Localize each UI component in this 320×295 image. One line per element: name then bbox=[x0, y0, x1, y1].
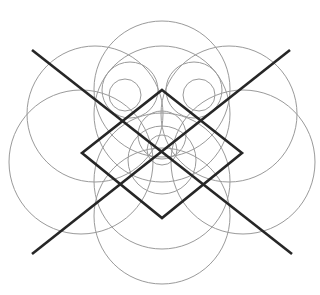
circle-outline bbox=[183, 79, 215, 111]
x-cross bbox=[32, 50, 292, 254]
circle-outline bbox=[171, 90, 315, 234]
circle-outline bbox=[109, 79, 141, 111]
circle-outline bbox=[94, 148, 230, 284]
circle-outline bbox=[9, 90, 153, 234]
geometric-figure bbox=[0, 0, 320, 295]
circle-outline bbox=[27, 46, 163, 182]
circle-outline bbox=[128, 126, 196, 194]
drawing-canvas bbox=[0, 0, 320, 295]
circle-outline bbox=[161, 46, 297, 182]
